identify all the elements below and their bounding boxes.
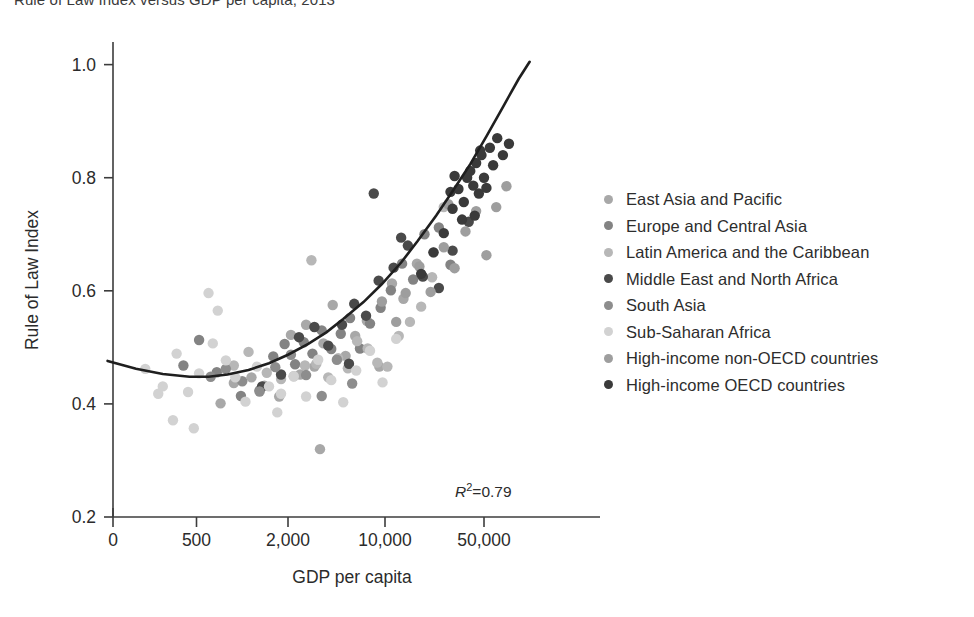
data-point: [460, 226, 470, 236]
data-point: [276, 389, 286, 399]
data-point: [382, 361, 392, 371]
data-point: [351, 365, 361, 375]
data-point: [328, 300, 338, 310]
data-point: [391, 334, 401, 344]
data-point: [183, 387, 193, 397]
figure-container: Rule of Law Index versus GDP per capita,…: [0, 0, 974, 617]
data-point: [427, 272, 437, 282]
data-point: [470, 210, 480, 220]
legend-item-label: Middle East and North Africa: [626, 271, 838, 288]
axis-group: [113, 42, 600, 517]
y-tick-label: 1.0: [72, 55, 97, 75]
data-point: [391, 317, 401, 327]
data-point: [221, 355, 231, 365]
x-tick-label: 2,000: [266, 530, 310, 550]
legend-marker-icon: [604, 248, 613, 257]
data-point: [347, 378, 357, 388]
data-point: [428, 247, 438, 257]
y-tick-label: 0.6: [72, 281, 96, 301]
x-tick-label: 10,000: [358, 530, 412, 550]
data-point: [300, 360, 310, 370]
data-point: [372, 357, 382, 367]
legend-item[interactable]: Latin America and the Caribbean: [604, 239, 970, 266]
data-point: [498, 150, 508, 160]
y-tick-label: 0.8: [72, 168, 96, 188]
legend-marker-icon: [604, 195, 613, 204]
data-point: [386, 285, 396, 295]
legend-item-label: High-income OECD countries: [626, 377, 845, 394]
data-point: [459, 197, 469, 207]
data-point: [194, 335, 204, 345]
data-point: [457, 214, 467, 224]
data-point: [377, 377, 387, 387]
legend-marker-icon: [604, 380, 613, 389]
legend-item[interactable]: High-income non-OECD countries: [604, 345, 970, 372]
r2-annotation: R2=0.79: [455, 481, 512, 500]
data-point: [481, 183, 491, 193]
data-point: [361, 310, 371, 320]
series-points: [257, 188, 474, 391]
data-point: [492, 133, 502, 143]
data-point: [488, 160, 498, 170]
legend: East Asia and PacificEurope and Central …: [604, 186, 970, 398]
data-point: [264, 381, 274, 391]
data-point: [208, 338, 218, 348]
legend-marker-icon: [604, 327, 613, 336]
legend-item[interactable]: Sub-Saharan Africa: [604, 319, 970, 346]
data-point: [365, 346, 375, 356]
data-point: [215, 398, 225, 408]
data-point: [479, 173, 489, 183]
legend-item[interactable]: High-income OECD countries: [604, 372, 970, 399]
data-point: [449, 171, 459, 181]
data-point: [449, 263, 459, 273]
x-tick-label: 50,000: [457, 530, 511, 550]
r2-value: =0.79: [472, 483, 511, 500]
data-point: [189, 423, 199, 433]
data-point: [439, 242, 449, 252]
x-axis-ticks: 05002,00010,00050,000: [108, 508, 511, 550]
data-point: [309, 322, 319, 332]
data-point: [416, 301, 426, 311]
data-point: [447, 204, 457, 214]
data-point: [153, 389, 163, 399]
data-point: [336, 329, 346, 339]
data-point: [405, 317, 415, 327]
data-point: [504, 139, 514, 149]
data-point: [439, 228, 449, 238]
legend-item-label: High-income non-OECD countries: [626, 350, 878, 367]
x-tick-label: 500: [182, 530, 211, 550]
x-tick-label: 0: [108, 530, 118, 550]
data-point: [178, 360, 188, 370]
data-point: [171, 348, 181, 358]
y-tick-label: 0.4: [72, 394, 97, 414]
legend-item-label: Latin America and the Caribbean: [626, 244, 869, 261]
legend-marker-icon: [604, 301, 613, 310]
data-point: [168, 415, 178, 425]
data-point: [272, 407, 282, 417]
data-point: [425, 287, 435, 297]
r2-prefix: R: [455, 483, 466, 500]
data-point: [401, 288, 411, 298]
data-point: [262, 368, 272, 378]
data-point: [313, 355, 323, 365]
legend-item[interactable]: South Asia: [604, 292, 970, 319]
data-point: [270, 362, 280, 372]
data-point: [290, 359, 300, 369]
data-point: [254, 386, 264, 396]
legend-item-label: East Asia and Pacific: [626, 191, 782, 208]
legend-item-label: Europe and Central Asia: [626, 218, 807, 235]
legend-item-label: Sub-Saharan Africa: [626, 324, 771, 341]
data-point: [317, 391, 327, 401]
data-point: [416, 269, 426, 279]
legend-marker-icon: [604, 221, 613, 230]
data-point: [491, 202, 501, 212]
data-point: [323, 340, 333, 350]
data-point: [243, 347, 253, 357]
legend-item[interactable]: Middle East and North Africa: [604, 266, 970, 293]
x-axis-title: GDP per capita: [292, 567, 412, 587]
y-axis-ticks: 0.20.40.60.81.0: [72, 55, 113, 527]
legend-item[interactable]: Europe and Central Asia: [604, 213, 970, 240]
data-point: [240, 396, 250, 406]
legend-item[interactable]: East Asia and Pacific: [604, 186, 970, 213]
y-tick-label: 0.2: [72, 507, 96, 527]
